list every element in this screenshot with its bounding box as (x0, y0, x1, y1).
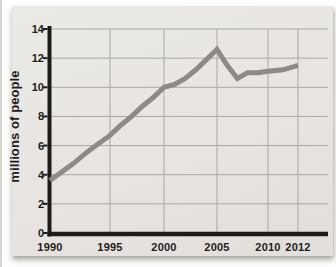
page: millions of people 024681012141990199520… (0, 0, 336, 267)
data-line (50, 49, 298, 180)
line-chart (0, 0, 336, 267)
